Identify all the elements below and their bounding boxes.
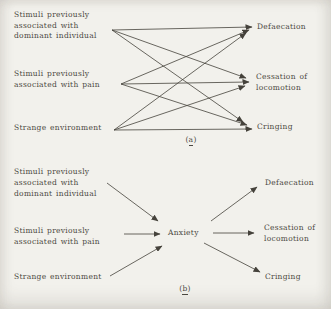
stimulus-label-strange-environment: Strange environment [14,123,102,134]
response-line: Cringing [257,122,293,133]
arrow-b-s2-anxiety [110,246,162,276]
arrow-a-s1-r2 [121,84,247,125]
panel-b-caption: (b) [174,284,196,293]
arrow-b-anxiety-r2 [204,243,260,272]
figure-page: Stimuli previously associated with domin… [0,0,331,309]
stimulus-line: associated with pain [14,236,100,247]
response-line: Defaecation [265,177,314,188]
stimulus-line: associated with [14,177,97,188]
arrow-layer [0,0,331,309]
caption-paren: ) [193,135,196,144]
caption-paren: ) [188,284,191,293]
response-label-cringing-b: Cringing [265,271,301,282]
panel-a-caption: (a) [180,135,202,144]
response-line: Defaecation [257,22,306,33]
response-line: Cessation of [256,72,307,83]
arrow-b-anxiety-r0 [211,187,257,221]
anxiety-node: Anxiety [168,228,199,239]
stimulus-label-dominant-individual: Stimuli previously associated with domin… [14,10,97,42]
arrow-a-s1-r0 [121,30,249,84]
stimulus-line: Stimuli previously [14,69,100,80]
stimulus-line: Strange environment [14,123,102,134]
stimulus-label-strange-environment-b: Strange environment [14,271,102,282]
response-label-cessation-b: Cessation of locomotion [264,222,315,244]
response-line: Cessation of [264,222,315,233]
stimulus-line: dominant individual [14,188,97,199]
response-label-defaecation-b: Defaecation [265,177,314,188]
stimulus-label-pain: Stimuli previously associated with pain [14,69,100,90]
stimulus-label-pain-b: Stimuli previously associated with pain [14,225,100,247]
arrow-a-s2-r0 [114,33,246,130]
stimulus-line: associated with pain [14,80,100,91]
arrow-a-s1-r1 [121,82,249,84]
stimulus-label-dominant-individual-b: Stimuli previously associated with domin… [14,166,97,199]
arrow-a-s2-r1 [114,86,245,130]
stimulus-line: Stimuli previously [14,166,97,177]
stimulus-line: Strange environment [14,271,102,282]
stimulus-line: dominant individual [14,31,97,42]
response-label-defaecation: Defaecation [257,22,306,33]
response-label-cringing: Cringing [257,122,293,133]
stimulus-line: associated with [14,21,97,32]
arrow-a-s2-r2 [114,129,252,130]
anxiety-label: Anxiety [168,228,199,239]
stimulus-line: Stimuli previously [14,10,97,21]
arrow-b-s0-anxiety [107,183,158,221]
response-line: Cringing [265,271,301,282]
response-label-cessation: Cessation of locomotion [256,72,307,93]
stimulus-line: Stimuli previously [14,225,100,236]
response-line: locomotion [264,233,315,244]
arrow-a-s0-r0 [112,27,252,30]
arrow-a-s0-r2 [112,30,243,122]
response-line: locomotion [256,83,307,94]
arrow-a-s0-r1 [112,30,246,78]
